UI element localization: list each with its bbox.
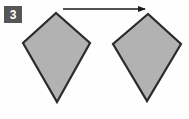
figure-canvas: 3 <box>0 0 189 119</box>
step-number-label: 3 <box>10 9 17 21</box>
step-number-badge: 3 <box>4 6 22 23</box>
figure-illustration <box>0 0 189 119</box>
